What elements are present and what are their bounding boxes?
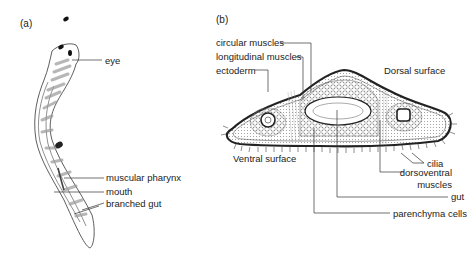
panel-b-label: (b) — [216, 14, 228, 25]
label-ectoderm: ectoderm — [216, 65, 256, 76]
label-ventral-surface: Ventral surface — [233, 153, 296, 164]
label-muscular-pharynx: muscular pharynx — [106, 172, 181, 183]
label-branched-gut: branched gut — [106, 198, 161, 209]
label-parenchyma-cells: parenchyma cells — [393, 208, 467, 219]
label-dorsal-surface: Dorsal surface — [384, 65, 445, 76]
panel-a-label: (a) — [20, 18, 32, 29]
label-longitudinal-muscles: longitudinal muscles — [216, 51, 302, 62]
label-dorsoventral: dorsoventral — [400, 167, 452, 178]
label-eye: eye — [105, 55, 120, 66]
label-circular-muscles: circular muscles — [216, 37, 284, 48]
eye-icon — [68, 50, 72, 56]
label-mouth: mouth — [106, 186, 132, 197]
label-muscles: muscles — [417, 179, 452, 190]
cross-section — [221, 70, 457, 153]
label-gut: gut — [451, 191, 464, 202]
flatworm-body — [35, 16, 94, 248]
